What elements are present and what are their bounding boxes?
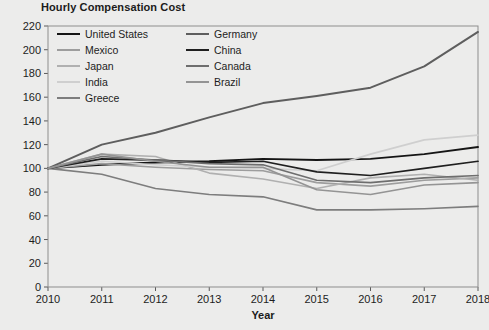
x-tick-label: 2015 [305,293,329,305]
legend-label-china: China [214,44,242,56]
y-tick-label: 180 [23,67,41,79]
legend-label-germany: Germany [214,28,258,40]
y-tick-label: 160 [23,91,41,103]
series-lines [48,32,478,210]
y-axis-ticks: 020406080100120140160180200220 [23,20,48,293]
y-tick-label: 120 [23,139,41,151]
y-tick-label: 40 [29,234,41,246]
y-tick-label: 140 [23,115,41,127]
y-tick-label: 220 [23,20,41,32]
legend-label-mexico: Mexico [85,44,118,56]
legend-label-japan: Japan [85,60,114,72]
x-tick-label: 2017 [412,293,436,305]
y-tick-label: 80 [29,186,41,198]
x-tick-label: 2016 [358,293,382,305]
x-tick-label: 2011 [90,293,114,305]
legend-label-united-states: United States [85,28,148,40]
chart-container: Hourly Compensation Cost 020406080100120… [0,0,489,330]
x-tick-label: 2018 [466,293,489,305]
x-tick-label: 2012 [143,293,167,305]
legend-label-brazil: Brazil [214,76,240,88]
legend-label-canada: Canada [214,60,251,72]
chart-legend: United StatesMexicoJapanIndiaGreeceGerma… [57,28,258,104]
legend-label-greece: Greece [85,92,120,104]
x-tick-label: 2013 [197,293,221,305]
x-tick-label: 2014 [251,293,275,305]
legend-label-india: India [85,76,108,88]
y-tick-label: 200 [23,44,41,56]
y-tick-label: 0 [35,281,41,293]
y-tick-label: 100 [23,162,41,174]
y-tick-label: 20 [29,257,41,269]
line-chart: 020406080100120140160180200220 201020112… [0,0,489,330]
x-tick-label: 2010 [36,293,60,305]
y-tick-label: 60 [29,210,41,222]
x-axis-title: Year [251,309,275,321]
x-axis-ticks: 201020112012201320142015201620172018 [36,287,489,305]
